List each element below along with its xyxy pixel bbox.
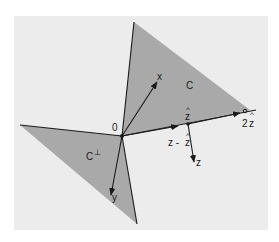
origin-point — [120, 134, 124, 138]
z-minus-zhat-tail: z — [185, 137, 190, 148]
origin-label: 0 — [112, 122, 118, 133]
z-vector-label: z — [196, 157, 201, 168]
x-vector-label: x — [157, 71, 162, 82]
z-minus-zhat-label: z - — [168, 137, 179, 148]
z-hat-label: z — [185, 111, 190, 122]
y-vector-label: y — [112, 192, 117, 203]
polar-cone-label: C — [86, 151, 93, 162]
two-z-hat-label: z — [249, 118, 254, 129]
polar-superscript: ⊥ — [94, 148, 101, 157]
cone-c-label: C — [186, 80, 193, 91]
cone-diagram: 0 C C ⊥ x y z ^ z 2 ^ z z - ^ z — [0, 0, 279, 242]
two-z-hat-coef: 2 — [242, 118, 248, 129]
z-hat-point — [186, 122, 190, 126]
